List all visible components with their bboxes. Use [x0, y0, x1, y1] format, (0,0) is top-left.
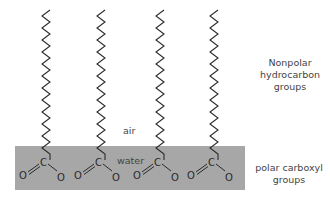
hydrocarbon-chain	[42, 10, 50, 160]
monolayer-diagram: C O O C O O C O O	[0, 0, 330, 202]
carbon-atom: C	[40, 157, 47, 168]
oxygen-atom-right: O	[171, 172, 179, 183]
fatty-acid-molecule-2: C O O	[74, 10, 120, 183]
hydrocarbon-chain	[156, 10, 164, 160]
oxygen-atom-left: O	[19, 170, 27, 181]
single-bond	[103, 164, 112, 171]
nonpolar-groups-label: Nonpolar hydrocarbon groups	[250, 57, 330, 93]
carbon-atom: C	[154, 157, 161, 168]
air-label: air	[123, 125, 135, 137]
carbon-atom: C	[208, 157, 215, 168]
oxygen-atom-left: O	[74, 170, 82, 181]
polar-label-line-2: groups	[248, 174, 330, 186]
fatty-acid-molecule-1: C O O	[19, 10, 65, 183]
polar-groups-label: polar carboxyl groups	[248, 162, 330, 186]
water-label: water	[117, 155, 144, 167]
nonpolar-label-line-2: hydrocarbon	[250, 69, 330, 81]
fatty-acid-molecule-4: C O O	[187, 10, 233, 183]
polar-label-line-1: polar carboxyl	[248, 162, 330, 174]
hydrocarbon-chain	[210, 10, 218, 160]
single-bond	[48, 164, 57, 171]
nonpolar-label-line-3: groups	[250, 81, 330, 93]
carbon-atom: C	[95, 157, 102, 168]
hydrocarbon-chain	[97, 10, 105, 160]
single-bond	[216, 164, 225, 171]
single-bond	[162, 164, 171, 171]
oxygen-atom-right: O	[112, 172, 120, 183]
oxygen-atom-right: O	[57, 172, 65, 183]
oxygen-atom-right: O	[225, 172, 233, 183]
nonpolar-label-line-1: Nonpolar	[250, 57, 330, 69]
oxygen-atom-left: O	[187, 170, 195, 181]
oxygen-atom-left: O	[133, 170, 141, 181]
